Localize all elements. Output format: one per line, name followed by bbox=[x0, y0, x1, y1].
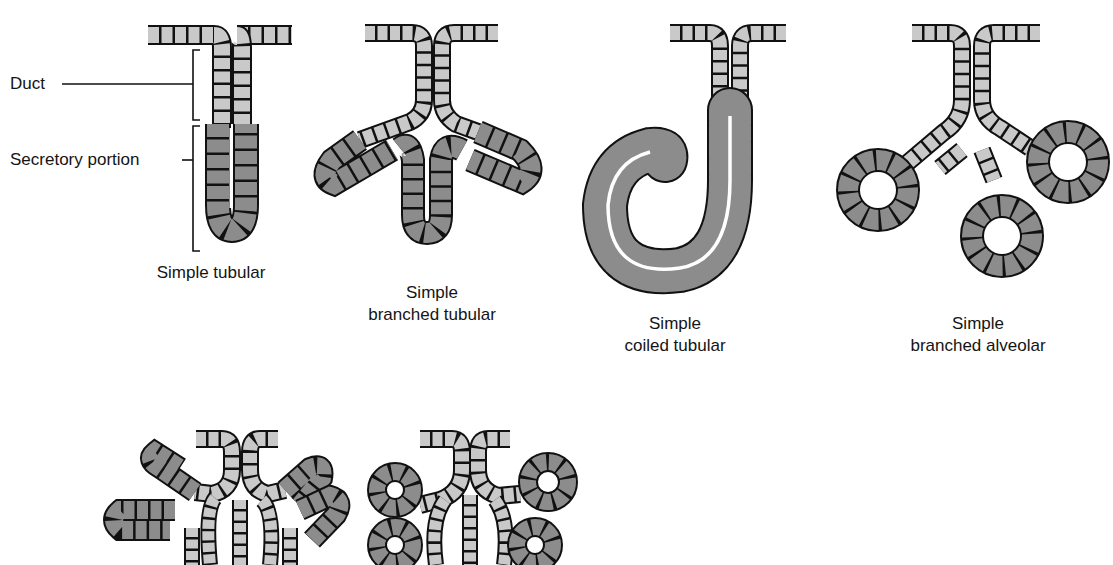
gland-simple-branched-alveolar bbox=[848, 33, 1098, 266]
duct-label: Duct bbox=[10, 73, 45, 94]
caption-line: Simple bbox=[888, 313, 1068, 335]
duct-bracket bbox=[193, 50, 200, 120]
caption-line: Simple bbox=[600, 313, 750, 335]
caption-line: branched alveolar bbox=[888, 335, 1068, 357]
gland-lower-branched-alveolar bbox=[377, 439, 568, 565]
caption-simple-branched-tubular: Simple branched tubular bbox=[352, 282, 512, 326]
caption-simple-coiled-tubular: Simple coiled tubular bbox=[600, 313, 750, 357]
caption-simple-tubular: Simple tubular bbox=[146, 262, 276, 284]
caption-simple-branched-alveolar: Simple branched alveolar bbox=[888, 313, 1068, 357]
caption-line: branched tubular bbox=[352, 304, 512, 326]
gland-lower-branched-tubular bbox=[114, 439, 339, 565]
gland-simple-coiled-tubular bbox=[605, 33, 786, 271]
caption-line: Simple tubular bbox=[146, 262, 276, 284]
gland-simple-branched-tubular bbox=[325, 33, 530, 233]
caption-line: Simple bbox=[352, 282, 512, 304]
caption-line: coiled tubular bbox=[600, 335, 750, 357]
secretory-bracket bbox=[193, 126, 200, 251]
gland-simple-tubular bbox=[62, 35, 292, 251]
secretory-portion-label: Secretory portion bbox=[10, 149, 139, 170]
